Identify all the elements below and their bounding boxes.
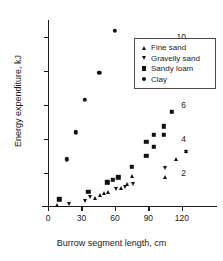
legend-item-label: Sandy loam	[151, 64, 193, 73]
data-point-sandy-loam	[105, 180, 109, 184]
data-point-gravelly-sand	[131, 182, 135, 186]
data-point-gravelly-sand	[83, 199, 87, 203]
x-axis-title: Burrow segment length, cm	[0, 238, 223, 248]
x-tick-label: 0	[46, 213, 51, 223]
triangle-up-icon	[139, 46, 149, 50]
data-point-gravelly-sand	[114, 187, 118, 191]
data-point-sandy-loam	[152, 144, 156, 148]
x-tick-label: 90	[144, 213, 153, 223]
data-point-sandy-loam	[110, 178, 114, 182]
y-tick-label: 4	[181, 134, 186, 144]
data-point-fine-sand	[163, 175, 167, 179]
x-tick	[48, 207, 49, 211]
y-tick-label: 2	[181, 168, 186, 178]
legend-item-gravelly-sand: Gravelly sand	[139, 53, 212, 63]
data-point-sandy-loam	[116, 175, 120, 179]
legend-item-clay: Clay	[139, 74, 212, 84]
x-tick	[182, 207, 183, 211]
data-point-gravelly-sand	[163, 166, 167, 170]
data-point-sandy-loam	[152, 133, 156, 137]
x-tick	[115, 207, 116, 211]
data-point-fine-sand	[102, 191, 106, 195]
legend-item-label: Gravelly sand	[151, 54, 200, 63]
y-axis-title: Energy expenditure, kJ	[13, 21, 23, 181]
legend: Fine sandGravelly sandSandy loamClay	[134, 38, 216, 89]
x-tick-label: 60	[110, 213, 119, 223]
data-point-gravelly-sand	[67, 202, 71, 206]
data-point-fine-sand	[106, 190, 110, 194]
data-point-sandy-loam	[170, 110, 174, 114]
legend-item-label: Fine sand	[151, 43, 186, 52]
legend-item-sandy-loam: Sandy loam	[139, 64, 212, 74]
data-point-fine-sand	[130, 174, 134, 178]
data-point-gravelly-sand	[88, 195, 92, 199]
data-point-sandy-loam	[162, 133, 166, 137]
scatter-chart-figure: 0306090120 246810 Energy expenditure, kJ…	[0, 0, 223, 261]
legend-item-fine-sand: Fine sand	[139, 43, 212, 53]
x-tick	[81, 207, 82, 211]
data-point-sandy-loam	[144, 139, 148, 143]
data-point-fine-sand	[93, 196, 97, 200]
x-tick-label: 120	[175, 213, 189, 223]
triangle-down-icon	[139, 56, 149, 60]
data-point-sandy-loam	[162, 124, 166, 128]
square-icon	[139, 66, 149, 70]
data-point-fine-sand	[55, 203, 59, 207]
data-point-fine-sand	[119, 186, 123, 190]
data-point-sandy-loam	[129, 165, 133, 169]
x-tick-label: 30	[77, 213, 86, 223]
data-point-sandy-loam	[144, 154, 148, 158]
data-point-gravelly-sand	[123, 185, 127, 189]
data-point-sandy-loam	[57, 197, 61, 201]
circle-icon	[139, 77, 149, 81]
y-tick-label: 6	[181, 100, 186, 110]
data-point-gravelly-sand	[184, 150, 188, 154]
data-point-fine-sand	[174, 157, 178, 161]
x-tick	[148, 207, 149, 211]
legend-item-label: Clay	[151, 75, 167, 84]
data-point-sandy-loam	[86, 189, 90, 193]
